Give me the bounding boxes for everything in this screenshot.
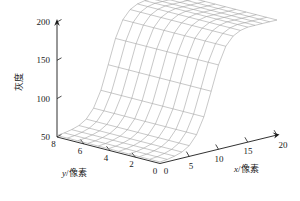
mesh-line bbox=[130, 10, 233, 37]
y-tick-label-4: 4 bbox=[104, 153, 109, 163]
mesh-line bbox=[88, 1, 205, 143]
x-tick-10 bbox=[216, 145, 219, 150]
z-tick-label-200: 200 bbox=[37, 17, 51, 27]
surface-wireframe-mesh bbox=[57, 0, 277, 162]
mesh-line bbox=[116, 38, 219, 65]
mesh-line bbox=[150, 17, 267, 159]
z-axis-title: 灰度 bbox=[13, 73, 24, 91]
y-tick-label-2: 2 bbox=[129, 159, 134, 169]
z-tick-label-50: 50 bbox=[41, 132, 51, 142]
x-tick-label-20: 20 bbox=[279, 140, 289, 150]
figure-3d-surface-plot: 200 150 100 50 灰度 8 6 4 2 0 y/像素 0 5 10 … bbox=[0, 0, 300, 201]
mesh-line bbox=[139, 15, 256, 157]
svg-text:x/像素: x/像素 bbox=[233, 163, 259, 174]
mesh-line bbox=[119, 9, 236, 151]
z-tick-100 bbox=[57, 96, 62, 99]
y-tick-label-6: 6 bbox=[78, 146, 83, 156]
mesh-line bbox=[160, 20, 277, 162]
y-tick-label-0: 0 bbox=[153, 166, 158, 176]
x-axis-title: x/像素 bbox=[233, 163, 259, 174]
x-tick-label-10: 10 bbox=[215, 154, 225, 164]
plot-canvas: 200 150 100 50 灰度 8 6 4 2 0 y/像素 0 5 10 … bbox=[0, 0, 300, 201]
svg-text:y/像素: y/像素 bbox=[61, 167, 87, 178]
mesh-line bbox=[78, 0, 195, 141]
y-axis-line bbox=[57, 137, 160, 164]
x-axis-title-unit: /像素 bbox=[238, 163, 259, 174]
y-axis-group bbox=[57, 137, 160, 164]
z-tick-150 bbox=[57, 58, 62, 61]
mesh-line bbox=[167, 0, 270, 22]
x-tick-5 bbox=[186, 152, 189, 157]
mesh-line bbox=[145, 1, 248, 28]
y-axis-title-unit: /像素 bbox=[66, 167, 87, 178]
z-axis-group bbox=[54, 19, 61, 137]
x-tick-label-0: 0 bbox=[164, 166, 169, 176]
z-tick-label-100: 100 bbox=[37, 94, 51, 104]
mesh-line bbox=[98, 4, 215, 146]
x-tick-15 bbox=[245, 137, 248, 142]
x-tick-label-5: 5 bbox=[189, 161, 194, 171]
mesh-line bbox=[57, 135, 160, 162]
y-axis-title: y/像素 bbox=[61, 167, 87, 178]
x-tick-label-15: 15 bbox=[244, 146, 254, 156]
mesh-line bbox=[79, 126, 182, 153]
mesh-line bbox=[123, 20, 226, 47]
z-tick-label-150: 150 bbox=[37, 55, 51, 65]
mesh-line bbox=[109, 7, 226, 149]
y-tick-label-8: 8 bbox=[51, 139, 56, 149]
mesh-line bbox=[129, 12, 246, 154]
mesh-line bbox=[57, 0, 174, 135]
